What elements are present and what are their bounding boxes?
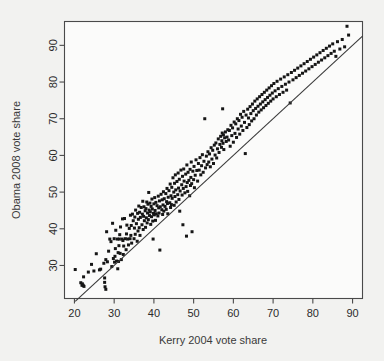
data-point <box>231 126 234 129</box>
data-point <box>104 288 107 291</box>
data-point <box>103 276 106 279</box>
data-point <box>174 188 177 191</box>
data-point <box>333 50 336 53</box>
data-point <box>284 83 287 86</box>
y-tick-label: 40 <box>48 223 60 235</box>
data-point <box>311 65 314 68</box>
data-point <box>323 56 326 59</box>
data-point <box>177 198 180 201</box>
data-point <box>135 222 138 225</box>
data-point <box>210 158 213 161</box>
data-point <box>309 58 312 61</box>
data-point <box>208 152 211 155</box>
data-point <box>151 220 154 223</box>
data-point <box>198 169 201 172</box>
data-point <box>222 133 225 136</box>
data-point <box>291 78 294 81</box>
data-point <box>125 224 128 227</box>
data-point <box>199 173 202 176</box>
data-point <box>331 42 334 45</box>
data-point <box>285 89 288 92</box>
data-point <box>200 164 203 167</box>
data-point <box>179 190 182 193</box>
y-tick-label: 60 <box>48 149 60 161</box>
scatter-plot-figure: 2030405060708090 30405060708090 Kerry 20… <box>0 0 384 361</box>
data-point <box>229 145 232 148</box>
data-point <box>251 103 254 106</box>
data-point <box>245 126 248 129</box>
data-point <box>144 226 147 229</box>
data-point <box>195 158 198 161</box>
data-point <box>227 139 230 142</box>
data-point <box>74 268 77 271</box>
data-point <box>314 63 317 66</box>
data-point <box>161 213 164 216</box>
y-tick-label: 90 <box>48 39 60 51</box>
data-point <box>171 176 174 179</box>
data-point <box>222 148 225 151</box>
data-point <box>95 252 98 255</box>
y-tick-label: 30 <box>48 259 60 271</box>
data-point <box>146 212 149 215</box>
data-point <box>82 275 85 278</box>
data-point <box>109 240 112 243</box>
plot-canvas: 2030405060708090 30405060708090 Kerry 20… <box>0 0 384 361</box>
data-point <box>271 92 274 95</box>
data-point <box>154 209 157 212</box>
data-point <box>299 64 302 67</box>
data-point <box>190 161 193 164</box>
data-point <box>248 123 251 126</box>
data-point <box>287 81 290 84</box>
data-point <box>181 223 184 226</box>
data-point <box>189 176 192 179</box>
data-point <box>219 135 222 138</box>
data-point <box>232 141 235 144</box>
data-point <box>176 193 179 196</box>
data-point <box>139 216 142 219</box>
data-point <box>125 232 128 235</box>
data-point <box>220 139 223 142</box>
data-point <box>312 56 315 59</box>
data-point <box>211 149 214 152</box>
data-point <box>178 178 181 181</box>
data-point <box>92 269 95 272</box>
data-point <box>177 172 180 175</box>
x-tick-label: 30 <box>108 307 120 319</box>
data-point <box>241 129 244 132</box>
data-point <box>118 233 121 236</box>
data-point <box>170 186 173 189</box>
data-point <box>202 171 205 174</box>
data-point <box>218 143 221 146</box>
data-point <box>303 62 306 65</box>
data-point <box>201 153 204 156</box>
data-point <box>140 206 143 209</box>
y-tick-label: 80 <box>48 76 60 88</box>
data-point <box>147 218 150 221</box>
data-point <box>134 233 137 236</box>
data-point <box>106 260 109 263</box>
data-point <box>320 59 323 62</box>
data-point <box>282 91 285 94</box>
data-point <box>274 89 277 92</box>
data-point <box>206 163 209 166</box>
data-point <box>253 117 256 120</box>
data-point <box>153 196 156 199</box>
data-point <box>113 255 116 258</box>
data-point <box>171 197 174 200</box>
data-point <box>138 211 141 214</box>
data-point <box>142 215 145 218</box>
y-tick-label: 70 <box>48 113 60 125</box>
data-point <box>241 116 244 119</box>
data-point <box>158 249 161 252</box>
x-tick-label: 50 <box>188 307 200 319</box>
data-point <box>338 48 341 51</box>
data-point <box>103 281 106 284</box>
data-point <box>150 205 153 208</box>
data-point <box>204 166 207 169</box>
x-tick-label: 90 <box>346 307 358 319</box>
data-point <box>187 171 190 174</box>
data-point <box>226 136 229 139</box>
data-point <box>117 244 120 247</box>
data-point <box>147 191 150 194</box>
data-point <box>278 93 281 96</box>
